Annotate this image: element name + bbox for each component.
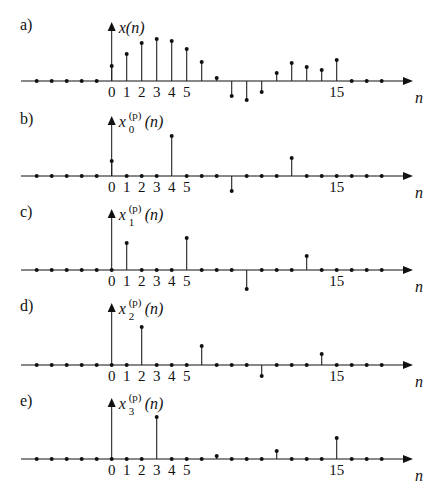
sample-dot [335,436,339,440]
sample-dot [365,79,369,83]
tick-label: 3 [153,462,161,478]
sample-dot [245,174,249,178]
tick-label: 15 [329,84,344,100]
y-label-superscript: (p) [129,296,142,309]
sample-dot [215,174,219,178]
sample-dot [50,174,54,178]
tick-label: 0 [108,368,116,384]
panel-label: c) [20,203,32,221]
panel-a: a)x(n)01234515n [20,16,423,106]
sample-dot [230,457,234,461]
sample-dot [35,363,39,367]
sample-dot [245,457,249,461]
panel-label: d) [20,297,33,315]
sample-dot [185,174,189,178]
sample-dot [110,159,114,163]
sample-dot [200,60,204,64]
panel-label: a) [20,16,32,34]
sample-dot [215,268,219,272]
sample-dot [290,156,294,160]
y-label-argument: (n) [145,206,164,224]
sample-dot [305,65,309,69]
sample-dot [320,352,324,356]
sample-dot [245,363,249,367]
sample-dot [185,457,189,461]
sample-dot [365,268,369,272]
sample-dot [230,268,234,272]
sample-dot [170,134,174,138]
tick-label: 2 [138,179,146,195]
x-axis-arrow-icon [403,361,413,369]
sample-dot [320,268,324,272]
sample-dot [95,174,99,178]
sample-dot [305,174,309,178]
sample-dot [170,457,174,461]
sample-dot [230,189,234,193]
sample-dot [65,457,69,461]
sample-dot [305,363,309,367]
sample-dot [80,363,84,367]
sample-dot [155,37,159,41]
sample-dot [50,457,54,461]
tick-label: 4 [168,84,176,100]
sample-dot [290,457,294,461]
sample-dot [50,268,54,272]
sample-dot [35,174,39,178]
sample-dot [80,174,84,178]
tick-label: 3 [153,179,161,195]
sample-dot [125,174,129,178]
sample-dot [200,174,204,178]
sample-dot [350,363,354,367]
sample-dot [260,90,264,94]
y-axis-arrow-icon [108,398,116,407]
tick-label: 1 [123,84,131,100]
sample-dot [215,363,219,367]
sample-dot [95,79,99,83]
y-label-subscript: 1 [129,216,135,228]
sample-dot [245,287,249,291]
y-label-subscript: 3 [129,405,135,417]
sample-dot [350,174,354,178]
sample-dot [110,64,114,68]
sample-dot [125,457,129,461]
sample-dot [140,457,144,461]
y-label-subscript: 2 [129,310,135,322]
sample-dot [50,363,54,367]
sample-dot [290,268,294,272]
sample-dot [110,457,114,461]
tick-label: 3 [153,84,161,100]
y-axis-arrow-icon [108,209,116,218]
sample-dot [65,174,69,178]
x-axis-label: n [415,373,423,390]
sample-dot [95,363,99,367]
sample-dot [260,457,264,461]
sample-dot [95,457,99,461]
sample-dot [50,79,54,83]
sample-dot [365,363,369,367]
sample-dot [335,174,339,178]
sample-dot [155,268,159,272]
sample-dot [65,79,69,83]
y-axis-arrow-icon [108,116,116,125]
y-axis-label: x [118,113,126,130]
x-axis-label: n [415,89,423,106]
y-label-subscript: 0 [129,123,135,135]
sample-dot [170,363,174,367]
y-axis-arrow-icon [108,303,116,312]
sample-dot [380,363,384,367]
sample-dot [305,457,309,461]
tick-label: 0 [108,84,116,100]
sample-dot [170,268,174,272]
y-label-superscript: (p) [129,391,142,404]
sample-dot [155,174,159,178]
tick-label: 15 [329,179,344,195]
sample-dot [380,79,384,83]
x-axis-label: n [415,184,423,201]
tick-label: 3 [153,368,161,384]
sample-dot [215,76,219,80]
sample-dot [380,174,384,178]
sample-dot [350,79,354,83]
sample-dot [260,174,264,178]
sample-dot [170,39,174,43]
sample-dot [380,457,384,461]
